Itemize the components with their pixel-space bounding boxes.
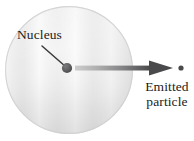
emitted-particle-label: Emitted particle xyxy=(139,80,194,109)
nucleus-dot xyxy=(62,63,72,73)
figure-canvas xyxy=(0,0,194,141)
emitted-particle-label-line2: particle xyxy=(139,95,194,110)
emitted-particle-label-line1: Emitted xyxy=(139,80,194,95)
nucleus-label: Nucleus xyxy=(17,28,62,43)
nuclear-emission-figure: Nucleus Emitted particle xyxy=(0,0,194,141)
emitted-particle-dot xyxy=(178,65,183,70)
